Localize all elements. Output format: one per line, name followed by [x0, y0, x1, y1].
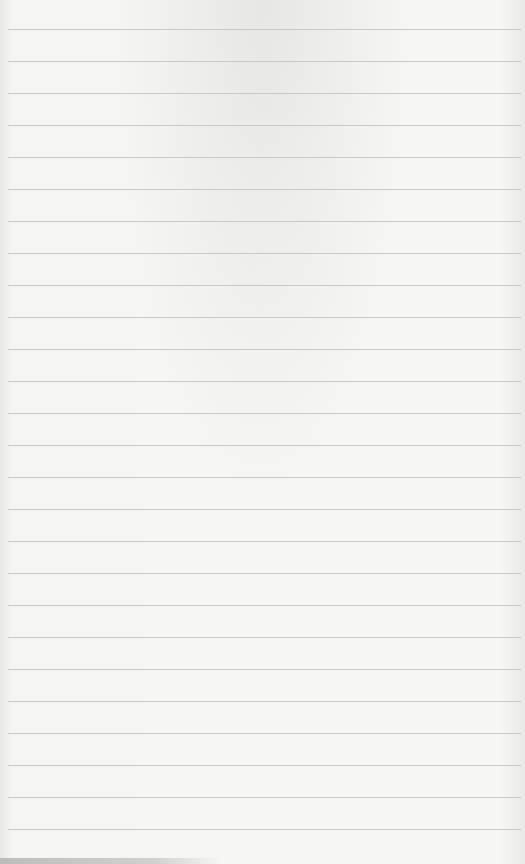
ruled-line [8, 669, 521, 670]
ruled-line [8, 221, 521, 222]
ruled-line [8, 61, 521, 62]
ruled-line [8, 765, 521, 766]
paper-bottom-edge [0, 858, 220, 864]
lined-paper-sheet [0, 0, 525, 864]
ruled-line [8, 157, 521, 158]
ruled-line [8, 413, 521, 414]
ruled-line [8, 29, 521, 30]
ruled-line [8, 285, 521, 286]
ruled-line [8, 573, 521, 574]
ruled-line [8, 637, 521, 638]
ruled-line [8, 605, 521, 606]
ruled-line [8, 349, 521, 350]
ruled-line [8, 189, 521, 190]
ruled-line [8, 797, 521, 798]
ruled-line [8, 381, 521, 382]
ruled-line [8, 733, 521, 734]
ruled-line [8, 125, 521, 126]
ruled-line [8, 317, 521, 318]
ruled-line [8, 477, 521, 478]
ruled-line [8, 445, 521, 446]
ruled-line [8, 509, 521, 510]
ruled-line [8, 829, 521, 830]
ruled-line [8, 541, 521, 542]
ruled-line [8, 93, 521, 94]
ruled-line [8, 253, 521, 254]
ruled-line [8, 701, 521, 702]
